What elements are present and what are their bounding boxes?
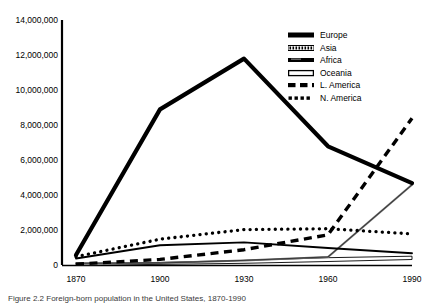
legend-item-europe: Europe bbox=[288, 29, 418, 42]
legend-label-l-america: L. America bbox=[320, 80, 360, 90]
figure-caption: Figure 2.2 Foreign-born population in th… bbox=[8, 294, 420, 304]
thick-solid-swatch-icon bbox=[288, 29, 314, 41]
chart-plot-area: 14,000,000 12,000,000 10,000,000 8,000,0… bbox=[0, 0, 420, 290]
hollow-swatch-icon bbox=[288, 67, 314, 79]
y-tick-10000000: 10,000,000 bbox=[0, 86, 58, 95]
x-tick-1960: 1960 bbox=[298, 275, 358, 284]
y-tick-4000000: 4,000,000 bbox=[0, 191, 58, 200]
dotted-swatch-icon bbox=[288, 92, 314, 104]
y-tick-0: 0 bbox=[0, 261, 58, 270]
legend-label-asia: Asia bbox=[320, 43, 337, 53]
legend-item-l-america: L. America bbox=[288, 79, 418, 92]
legend-item-oceania: Oceania bbox=[288, 67, 418, 80]
x-tick-1870: 1870 bbox=[46, 275, 106, 284]
legend-item-n-america: N. America bbox=[288, 92, 418, 105]
legend-item-africa: Africa bbox=[288, 54, 418, 67]
x-tick-1900: 1900 bbox=[130, 275, 190, 284]
y-tick-12000000: 12,000,000 bbox=[0, 51, 58, 60]
legend-label-europe: Europe bbox=[320, 30, 347, 40]
medium-solid-swatch-icon bbox=[288, 54, 314, 66]
y-tick-14000000: 14,000,000 bbox=[0, 16, 58, 25]
legend-label-oceania: Oceania bbox=[320, 68, 352, 78]
y-tick-6000000: 6,000,000 bbox=[0, 156, 58, 165]
legend-label-africa: Africa bbox=[320, 55, 342, 65]
chart-legend: Europe Asia bbox=[288, 29, 418, 104]
x-tick-1930: 1930 bbox=[214, 275, 274, 284]
x-tick-1990: 1990 bbox=[382, 275, 426, 284]
dashed-swatch-icon bbox=[288, 79, 314, 91]
y-tick-8000000: 8,000,000 bbox=[0, 121, 58, 130]
hatched-swatch-icon bbox=[288, 42, 314, 54]
legend-item-asia: Asia bbox=[288, 42, 418, 55]
y-tick-2000000: 2,000,000 bbox=[0, 226, 58, 235]
legend-label-n-america: N. America bbox=[320, 93, 362, 103]
